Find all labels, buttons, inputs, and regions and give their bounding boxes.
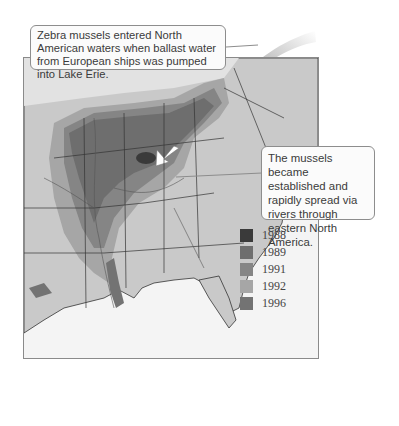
legend-item-1988: 1988 [240, 227, 286, 244]
callout-ballast-entry: Zebra mussels entered North American wat… [30, 25, 226, 70]
legend: 1988 1989 1991 1992 1996 [240, 227, 286, 312]
legend-swatch [240, 280, 253, 293]
legend-item-1992: 1992 [240, 278, 286, 295]
legend-swatch [240, 263, 253, 276]
legend-item-1996: 1996 [240, 295, 286, 312]
legend-item-1991: 1991 [240, 261, 286, 278]
legend-item-1989: 1989 [240, 244, 286, 261]
spread-1988 [136, 152, 156, 164]
legend-swatch [240, 229, 253, 242]
callout-spread: The mussels became established and rapid… [261, 146, 375, 220]
legend-swatch [240, 246, 253, 259]
legend-swatch [240, 297, 253, 310]
